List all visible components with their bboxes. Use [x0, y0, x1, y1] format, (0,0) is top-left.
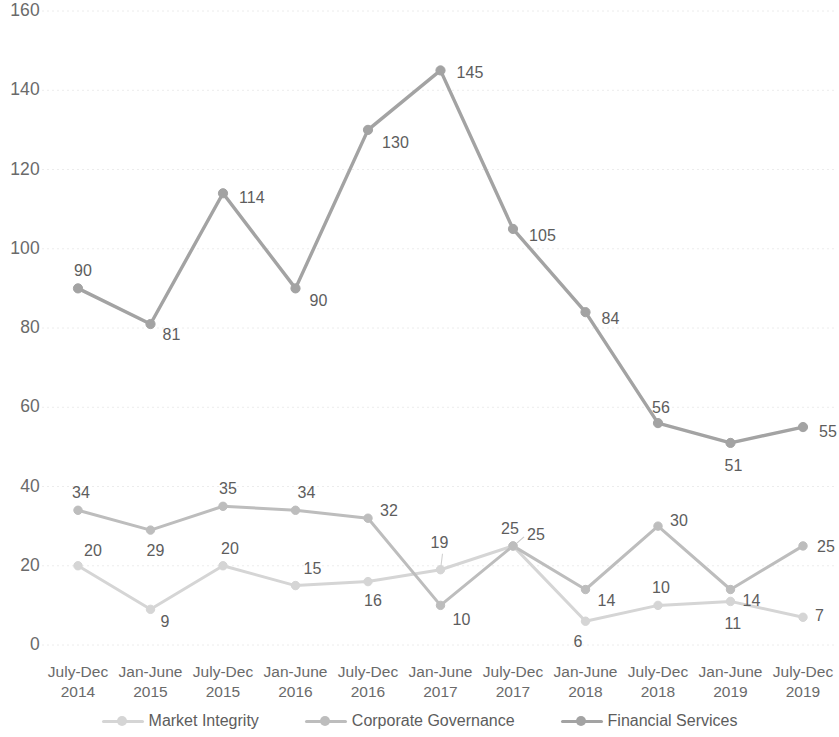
data-label-0-1: 9	[161, 613, 170, 631]
legend-label: Corporate Governance	[352, 712, 515, 730]
data-label-2-4: 130	[382, 134, 409, 152]
legend-item-1[interactable]: Corporate Governance	[305, 712, 515, 730]
data-label-2-1: 81	[163, 326, 181, 344]
legend-item-0[interactable]: Market Integrity	[102, 712, 259, 730]
data-label-2-8: 56	[652, 399, 670, 417]
y-axis-tick-160: 160	[0, 0, 40, 21]
y-axis-tick-0: 0	[0, 634, 40, 655]
y-axis-tick-40: 40	[0, 476, 40, 497]
legend-label: Market Integrity	[149, 712, 259, 730]
data-label-0-8: 10	[652, 579, 670, 597]
legend-swatch-icon	[102, 715, 144, 727]
data-label-2-2: 114	[239, 189, 265, 207]
data-label-0-9: 11	[725, 615, 742, 633]
x-axis-tick-10: July-Dec2019	[758, 662, 839, 702]
legend-swatch-icon	[305, 715, 347, 727]
chart-legend: Market IntegrityCorporate GovernanceFina…	[0, 712, 839, 730]
y-axis-tick-120: 120	[0, 159, 40, 180]
data-label-0-5: 19	[431, 534, 449, 552]
data-label-1-10: 25	[817, 538, 835, 556]
data-label-2-10: 55	[819, 423, 837, 441]
y-axis-tick-60: 60	[0, 396, 40, 417]
data-label-1-7: 14	[598, 592, 616, 610]
data-label-1-3: 34	[298, 484, 316, 502]
data-label-0-2: 20	[221, 540, 239, 558]
y-axis-tick-80: 80	[0, 317, 40, 338]
data-label-1-2: 35	[219, 480, 237, 498]
data-label-1-6: 25	[527, 526, 545, 544]
chart-plot-area	[0, 0, 839, 737]
data-label-1-4: 32	[380, 502, 398, 520]
data-label-1-9: 14	[743, 592, 761, 610]
y-axis-tick-140: 140	[0, 79, 40, 100]
data-label-2-3: 90	[310, 292, 328, 310]
data-label-2-5: 145	[457, 64, 484, 82]
data-label-2-6: 105	[529, 227, 556, 245]
data-label-0-7: 6	[574, 633, 583, 651]
data-label-0-0: 20	[84, 542, 102, 560]
data-label-0-3: 15	[304, 560, 322, 578]
data-label-2-7: 84	[602, 310, 620, 328]
data-label-2-0: 90	[74, 262, 92, 280]
data-label-1-0: 34	[72, 484, 90, 502]
legend-item-2[interactable]: Financial Services	[561, 712, 738, 730]
y-axis-tick-20: 20	[0, 555, 40, 576]
data-label-0-4: 16	[364, 592, 382, 610]
line-chart: 020406080100120140160 July-Dec2014Jan-Ju…	[0, 0, 839, 737]
data-label-2-9: 51	[725, 457, 743, 475]
data-label-1-5: 10	[453, 611, 471, 629]
data-label-0-6: 25	[501, 520, 519, 538]
data-label-1-8: 30	[670, 512, 688, 530]
legend-label: Financial Services	[608, 712, 738, 730]
data-label-0-10: 7	[815, 607, 824, 625]
y-axis-tick-100: 100	[0, 238, 40, 259]
legend-swatch-icon	[561, 715, 603, 727]
data-label-1-1: 29	[147, 542, 165, 560]
